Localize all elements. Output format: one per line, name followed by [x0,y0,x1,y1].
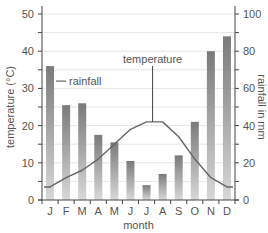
rainfall-bar [78,103,86,200]
climate-chart: 01020304050020406080100JFMAMJJASONDmonth… [0,0,268,233]
rainfall-bar [126,161,134,200]
right-tick-label: 80 [243,45,255,57]
rainfall-bar [143,185,151,200]
month-label: A [95,205,103,217]
left-tick-label: 50 [22,8,34,20]
month-label: S [175,205,182,217]
right-tick-label: 40 [243,120,255,132]
x-axis-title: month [123,219,154,231]
temperature-line-path [44,122,233,187]
temperature-line [44,122,233,187]
left-tick-label: 10 [22,157,34,169]
month-label: D [223,205,231,217]
rainfall-bar [159,174,167,200]
month-label: M [78,205,87,217]
annotations: rainfalltemperature [56,53,182,122]
rainfall-bar [191,122,199,200]
rainfall-bar [46,66,54,200]
right-tick-label: 20 [243,157,255,169]
left-tick-label: 40 [22,45,34,57]
month-label: O [191,205,200,217]
rainfall-bar [110,142,118,200]
left-tick-label: 0 [28,194,34,206]
month-label: J [128,205,134,217]
month-label: J [47,205,53,217]
right-tick-label: 60 [243,82,255,94]
right-tick-label: 0 [243,194,249,206]
rainfall-bar [94,135,102,200]
left-tick-label: 30 [22,82,34,94]
rainfall-bar [175,155,183,200]
right-axis-title: rainfall in mm [256,74,268,139]
month-label: A [159,205,167,217]
rainfall-bar [62,105,70,200]
month-label: F [63,205,70,217]
month-label: J [144,205,150,217]
rainfall-annotation: rainfall [69,75,101,87]
month-label: M [110,205,119,217]
rainfall-bar [223,36,231,200]
temperature-annotation: temperature [123,53,182,65]
month-label: N [207,205,215,217]
right-tick-label: 100 [243,8,261,20]
left-tick-label: 20 [22,120,34,132]
gridlines [42,14,235,181]
left-axis-title: temperature (°C) [4,66,16,148]
